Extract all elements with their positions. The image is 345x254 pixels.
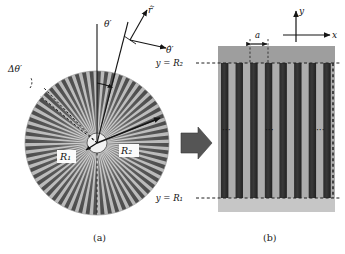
grating-stripe-shading	[250, 63, 257, 198]
y-eq-R2-label: y = R₂	[155, 58, 184, 68]
figure-root: θ′ r̂′ θ̂′ Δθ′ R₁ R₂	[0, 0, 345, 254]
period-label-a: a	[255, 30, 260, 40]
x-axis-label: x	[332, 30, 337, 40]
y-axis-label: y	[298, 6, 305, 16]
grating-stripe-shading	[294, 63, 301, 198]
grating-stripe-shading	[236, 63, 243, 198]
theta-prime-label: θ′	[104, 19, 111, 29]
ellipsis-left: ···	[222, 125, 231, 135]
caption-panel-a: (a)	[93, 232, 106, 243]
grating-stripe-shading	[309, 63, 316, 198]
R1-label: R₁	[59, 151, 71, 162]
ellipsis-right: ···	[316, 125, 325, 135]
ellipsis-mid: ···	[265, 125, 274, 135]
panel-b-header-band	[218, 46, 335, 63]
caption-panel-b: (b)	[263, 232, 277, 243]
delta-theta-prime-label: Δθ′	[7, 64, 22, 74]
grating-stripe-shading	[280, 63, 287, 198]
theta-hat-prime-label: θ̂′	[166, 45, 173, 55]
y-eq-R1-label: y = R₁	[155, 193, 183, 203]
r-hat-prime-label: r̂′	[148, 5, 154, 15]
R2-label: R₂	[120, 145, 132, 156]
panel-b-footer-band	[218, 198, 335, 212]
